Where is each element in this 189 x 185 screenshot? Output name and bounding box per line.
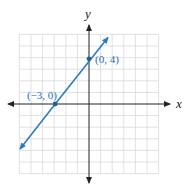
point-neg3-0 <box>53 102 58 107</box>
point-0-4-label: (0, 4) <box>95 53 119 66</box>
y-axis-label: y <box>83 6 91 21</box>
point-0-4 <box>87 56 92 61</box>
coordinate-plane: x y (−3, 0) (0, 4) <box>0 0 189 185</box>
point-neg3-0-label: (−3, 0) <box>27 89 57 102</box>
plotted-line-neg <box>20 104 55 149</box>
plotted-line <box>55 38 108 105</box>
axes <box>8 25 170 183</box>
x-axis-label: x <box>175 96 182 111</box>
